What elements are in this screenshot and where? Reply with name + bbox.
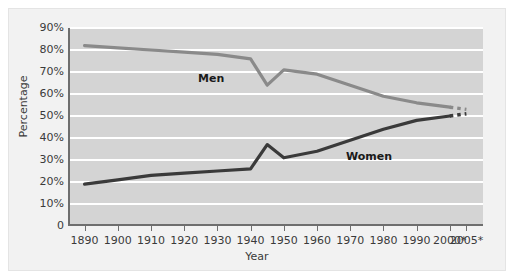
series-label-women: Women [346,150,392,163]
plot-wrapper: MenWomen [68,28,483,226]
y-axis-tick-label: 10% [22,198,64,209]
series-label-men: Men [198,72,224,85]
y-axis-tick-label: 30% [22,154,64,165]
x-axis-tick-mark [251,226,252,231]
y-axis-tick-label: 80% [22,44,64,55]
x-axis-title: Year [0,250,514,263]
series-line-women [85,116,450,184]
x-axis-tick-mark [284,226,285,231]
x-axis-tick-label: 2005* [442,234,490,247]
series-projection-women [450,114,467,116]
x-axis-tick-mark [184,226,185,231]
x-axis-tick-mark [450,226,451,231]
x-axis-tick-mark [151,226,152,231]
x-axis-tick-mark [350,226,351,231]
y-axis-tick-label: 20% [22,176,64,187]
series-projection-men [450,107,467,109]
x-axis-tick-mark [417,226,418,231]
x-axis-tick-labels: 1890190019101920193019401950196019701980… [68,226,483,252]
x-axis-tick-mark [217,226,218,231]
x-axis-tick-mark [85,226,86,231]
y-axis-tick-label: 90% [22,22,64,33]
x-axis-tick-mark [383,226,384,231]
x-axis-tick-mark [317,226,318,231]
y-axis-title: Percentage [17,62,30,152]
x-axis-tick-mark [118,226,119,231]
series-line-men [85,46,450,108]
chart-figure: 010%20%30%40%50%60%70%80%90% Percentage … [0,0,514,279]
series-lines [68,28,483,226]
y-axis-tick-label: 0 [22,220,64,231]
x-axis-tick-mark [466,226,467,231]
